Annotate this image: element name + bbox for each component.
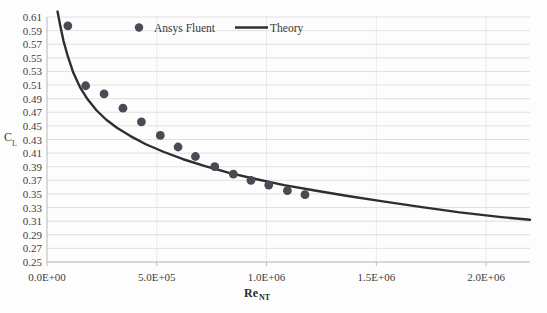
data-point	[191, 152, 200, 161]
y-tick-label: 0.29	[23, 229, 43, 241]
x-tick-label: 1.5E+06	[357, 271, 395, 283]
y-tick-label: 0.51	[23, 79, 42, 91]
y-axis-title-subscript: L	[12, 139, 17, 148]
y-axis-title: C L	[4, 130, 17, 148]
y-tick-label: 0.37	[23, 174, 43, 186]
horizontal-gridlines	[47, 17, 530, 262]
data-point	[100, 90, 109, 99]
y-tick-label: 0.45	[23, 120, 43, 132]
x-axis-title-subscript: NT	[259, 293, 271, 302]
data-point	[247, 176, 256, 185]
y-tick-label: 0.39	[23, 161, 43, 173]
y-tick-label: 0.49	[23, 93, 43, 105]
y-tick-label: 0.61	[23, 11, 42, 23]
y-tick-label: 0.41	[23, 147, 42, 159]
data-point	[301, 190, 310, 199]
y-tick-label: 0.47	[23, 106, 43, 118]
legend-label-ansys-fluent: Ansys Fluent	[154, 22, 216, 35]
x-tick-label: 2.0E+06	[467, 271, 505, 283]
y-tick-label: 0.35	[23, 188, 43, 200]
theory-series-line	[58, 12, 530, 220]
data-point	[137, 117, 146, 126]
chart-legend: Ansys Fluent Theory	[135, 22, 304, 35]
data-point	[119, 104, 128, 113]
ansys-fluent-series-points	[63, 21, 309, 199]
x-tick-label: 1.0E+06	[248, 271, 286, 283]
y-tick-label: 0.31	[23, 215, 42, 227]
x-axis-title: Re NT	[244, 286, 271, 302]
x-axis-title-main: Re	[244, 286, 259, 300]
legend-marker-ansys-fluent	[135, 23, 143, 31]
x-axis-tick-labels: 0.0E+005.0E+051.0E+061.5E+062.0E+06	[28, 271, 505, 283]
data-point	[229, 170, 238, 179]
y-tick-label: 0.25	[23, 256, 43, 268]
y-tick-label: 0.59	[23, 25, 43, 37]
data-point	[63, 21, 72, 30]
y-tick-label: 0.43	[23, 134, 43, 146]
y-tick-label: 0.53	[23, 65, 43, 77]
y-tick-label: 0.55	[23, 52, 43, 64]
axis-lines	[47, 17, 530, 266]
y-tick-label: 0.33	[23, 202, 43, 214]
data-point	[174, 143, 183, 152]
data-point	[283, 186, 292, 195]
x-tick-label: 0.0E+00	[28, 271, 66, 283]
y-tick-label: 0.27	[23, 242, 43, 254]
data-point	[210, 162, 219, 171]
theory-curve	[58, 12, 530, 220]
x-tick-label: 5.0E+05	[138, 271, 176, 283]
y-tick-label: 0.57	[23, 38, 43, 50]
data-point	[156, 131, 165, 140]
data-point	[81, 81, 90, 90]
legend-label-theory: Theory	[270, 22, 303, 35]
chart-container: 0.250.270.290.310.330.350.370.390.410.43…	[0, 0, 547, 313]
scatter-chart: 0.250.270.290.310.330.350.370.390.410.43…	[0, 0, 547, 313]
data-point	[264, 181, 273, 190]
y-axis-title-main: C	[4, 130, 12, 144]
y-axis-tick-labels: 0.250.270.290.310.330.350.370.390.410.43…	[23, 11, 43, 268]
